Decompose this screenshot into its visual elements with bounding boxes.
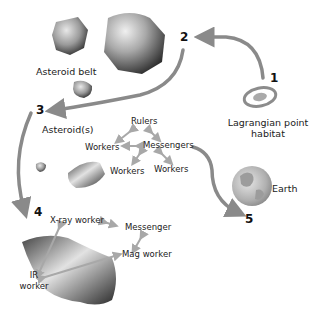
- messenger-label: Messenger: [125, 222, 171, 233]
- lagrangian-habitat-icon: [242, 85, 277, 109]
- lagrangian-label-line2: habitat: [226, 128, 310, 139]
- arrow-1-to-2: [204, 37, 263, 78]
- ir-worker-label: IR worker: [14, 270, 54, 292]
- ir-label-line1: IR: [14, 270, 54, 281]
- earth-label: Earth: [272, 183, 297, 194]
- arrow-3-to-4: [18, 113, 31, 209]
- lagrangian-label-line1: Lagrangian point: [226, 117, 310, 128]
- step-4-number: 4: [34, 205, 42, 219]
- asteroid-belt-rocks: [52, 13, 165, 98]
- step-1-number: 1: [270, 71, 278, 85]
- xray-worker-label: X-ray worker: [50, 215, 104, 226]
- mag-worker-label: Mag worker: [122, 249, 172, 260]
- arrow-messengers-to-5: [193, 147, 237, 212]
- asteroid-belt-label: Asteroid belt: [36, 66, 96, 77]
- workers-mid-label: Workers: [110, 166, 144, 177]
- step-5-number: 5: [245, 212, 253, 226]
- rulers-label: Rulers: [131, 116, 157, 127]
- messengers-label: Messengers: [143, 140, 194, 151]
- asteroids-label: Asteroid(s): [42, 124, 94, 135]
- ir-label-line2: worker: [14, 281, 54, 292]
- diagram-canvas: [0, 0, 317, 313]
- asteroid-rocks: [36, 162, 105, 188]
- step-2-number: 2: [180, 30, 188, 44]
- workers-right-label: Workers: [154, 164, 188, 175]
- step-3-number: 3: [36, 103, 44, 117]
- earth-icon: [232, 166, 272, 206]
- workers-left-label: Workers: [85, 142, 119, 153]
- lagrangian-habitat-label: Lagrangian point habitat: [226, 117, 310, 139]
